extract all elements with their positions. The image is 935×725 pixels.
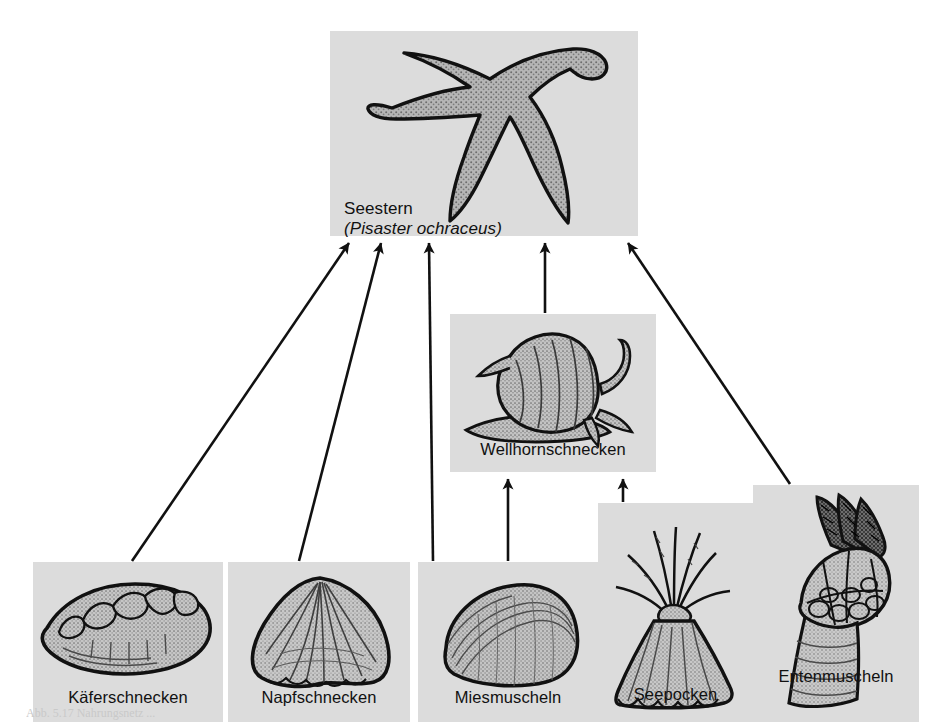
panel-kaeferschnecken-label: Käferschnecken xyxy=(33,688,223,707)
panel-kaeferschnecken[interactable]: Käferschnecken xyxy=(33,562,223,722)
arrow-napfschnecken-to-seestern xyxy=(299,243,381,561)
panel-seestern-label: Seestern xyxy=(344,199,413,218)
panel-entenmuscheln-label: Entenmuscheln xyxy=(753,667,919,686)
arrow-kaeferschnecken-to-seestern xyxy=(132,243,349,561)
arrow-miesmuscheln-to-seestern xyxy=(429,243,433,561)
panel-napfschnecken[interactable]: Napfschnecken xyxy=(228,562,410,722)
panel-seestern[interactable]: Seestern (Pisaster ochraceus) xyxy=(330,31,638,236)
panel-miesmuscheln[interactable]: Miesmuscheln xyxy=(418,562,598,722)
panel-entenmuscheln[interactable]: Entenmuscheln xyxy=(753,485,919,722)
panel-seepocken-label: Seepocken xyxy=(598,685,753,704)
figure-caption-clipped: Abb. 5.17 Nahrungsnetz ... xyxy=(26,706,666,720)
food-web-figure: Seestern (Pisaster ochraceus) xyxy=(0,0,935,725)
panel-miesmuscheln-label: Miesmuscheln xyxy=(418,688,598,707)
goose-barnacle-icon xyxy=(753,485,919,722)
panel-napfschnecken-label: Napfschnecken xyxy=(228,688,410,707)
panel-seestern-scientific-name: (Pisaster ochraceus) xyxy=(344,219,638,239)
panel-wellhornschnecken[interactable]: Wellhornschnecken xyxy=(450,314,656,472)
panel-wellhornschnecken-label: Wellhornschnecken xyxy=(450,440,656,459)
panel-seepocken[interactable]: Seepocken xyxy=(598,503,753,722)
panel-seestern-caption: Seestern (Pisaster ochraceus) xyxy=(330,199,638,238)
